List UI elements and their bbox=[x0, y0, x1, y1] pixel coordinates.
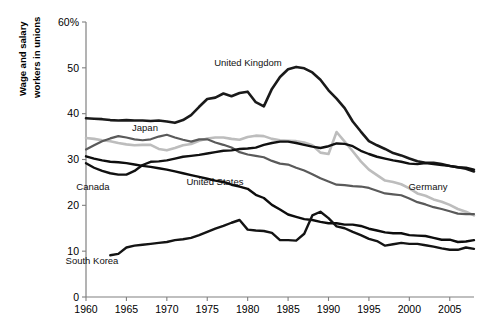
series-line-united-states bbox=[86, 156, 474, 242]
series-label-south-korea: South Korea bbox=[66, 255, 120, 266]
x-tick-label: 2000 bbox=[398, 303, 422, 315]
x-tick-label: 1985 bbox=[276, 303, 300, 315]
y-axis-title-line2: workers in unions bbox=[31, 17, 42, 99]
y-tick-label: 20 bbox=[67, 199, 79, 211]
y-tick-label: 40 bbox=[67, 107, 79, 119]
y-tick-label: 0 bbox=[73, 291, 79, 303]
x-tick-label: 1965 bbox=[115, 303, 139, 315]
chart-svg: 60%50403020100 1960196519701975198019851… bbox=[0, 0, 486, 334]
x-tick-label: 1980 bbox=[236, 303, 260, 315]
series-line-canada bbox=[86, 142, 474, 175]
series-label-united-kingdom: United Kingdom bbox=[214, 57, 282, 68]
y-tick-label: 60% bbox=[58, 16, 79, 28]
y-tick-label: 30 bbox=[67, 153, 79, 165]
series-line-germany bbox=[86, 132, 474, 215]
union-membership-chart: 60%50403020100 1960196519701975198019851… bbox=[0, 0, 486, 334]
x-tick-label: 2005 bbox=[438, 303, 462, 315]
y-axis-title-line1: Wage and salary bbox=[17, 21, 28, 96]
x-tick-label: 1975 bbox=[196, 303, 220, 315]
series-labels-group: United KingdomJapanCanadaUnited StatesGe… bbox=[66, 57, 448, 266]
x-tick-label: 1970 bbox=[155, 303, 179, 315]
x-tick-label: 1960 bbox=[74, 303, 98, 315]
series-line-south-korea bbox=[110, 212, 474, 256]
series-line-united-kingdom bbox=[86, 67, 474, 172]
y-axis-title: Wage and salary workers in unions bbox=[17, 17, 42, 99]
series-label-united-states: United States bbox=[186, 176, 243, 187]
x-tick-label: 1990 bbox=[317, 303, 341, 315]
x-tick-label: 1995 bbox=[357, 303, 381, 315]
series-label-japan: Japan bbox=[132, 122, 158, 133]
data-series-group bbox=[86, 67, 474, 255]
series-label-germany: Germany bbox=[408, 181, 447, 192]
x-axis-ticks: 1960196519701975198019851990199520002005 bbox=[74, 297, 461, 315]
series-line-japan bbox=[86, 135, 474, 214]
y-tick-label: 50 bbox=[67, 62, 79, 74]
series-label-canada: Canada bbox=[76, 181, 110, 192]
